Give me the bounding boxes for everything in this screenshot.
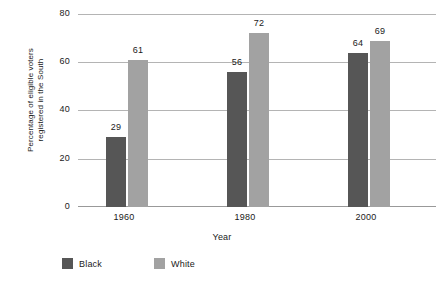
bar-chart: Percentage of eligible voters registered… bbox=[0, 0, 444, 285]
bar-value-2000-black: 64 bbox=[343, 38, 373, 48]
legend-item-white[interactable]: White bbox=[154, 258, 195, 269]
bar-value-1960-black: 29 bbox=[101, 122, 131, 132]
bar-value-2000-white: 69 bbox=[365, 26, 395, 36]
bar-2000-black[interactable] bbox=[348, 53, 368, 207]
bar-1960-white[interactable] bbox=[128, 60, 148, 207]
plot-area: 29 61 56 72 64 69 bbox=[78, 14, 436, 207]
y-axis-title-line-2: registered in the South bbox=[36, 0, 46, 200]
y-axis-title-line-1: Percentage of eligible voters bbox=[26, 0, 36, 200]
legend-label-black: Black bbox=[79, 259, 102, 269]
bar-2000-white[interactable] bbox=[370, 41, 390, 207]
y-axis-title: Percentage of eligible voters registered… bbox=[26, 0, 48, 200]
y-tick-label-20: 20 bbox=[30, 153, 70, 163]
x-tick-label-1980: 1980 bbox=[225, 212, 265, 222]
bar-1960-black[interactable] bbox=[106, 137, 126, 207]
bars-layer bbox=[78, 14, 436, 207]
legend-label-white: White bbox=[171, 259, 195, 269]
bar-1980-black[interactable] bbox=[227, 72, 247, 207]
x-tick-label-1960: 1960 bbox=[104, 212, 144, 222]
bar-value-1980-white: 72 bbox=[244, 18, 274, 28]
y-tick-label-80: 80 bbox=[30, 8, 70, 18]
x-tick-label-2000: 2000 bbox=[346, 212, 386, 222]
legend-swatch-black-icon bbox=[62, 258, 73, 269]
x-axis-title: Year bbox=[0, 232, 444, 242]
legend-item-black[interactable]: Black bbox=[62, 258, 102, 269]
bar-value-1980-black: 56 bbox=[222, 57, 252, 67]
legend: Black White bbox=[62, 258, 195, 269]
y-tick-label-40: 40 bbox=[30, 104, 70, 114]
legend-swatch-white-icon bbox=[154, 258, 165, 269]
y-tick-label-0: 0 bbox=[30, 201, 70, 211]
bar-1980-white[interactable] bbox=[249, 33, 269, 207]
bar-value-1960-white: 61 bbox=[123, 45, 153, 55]
y-tick-label-60: 60 bbox=[30, 56, 70, 66]
